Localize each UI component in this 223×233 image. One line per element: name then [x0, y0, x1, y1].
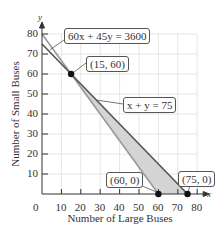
y-tick-label: 60: [27, 68, 38, 79]
y-tick-label: 10: [27, 168, 38, 179]
y-tick-label: 20: [27, 148, 38, 159]
label-point-75-0: (75, 0): [178, 171, 215, 187]
x-axis-symbol: x: [207, 190, 211, 199]
y-tick-label: 40: [27, 108, 38, 119]
data-point: [184, 191, 190, 197]
x-axis-label: Number of Large Buses: [40, 212, 200, 224]
y-axis-label: Number of Small Buses: [9, 59, 21, 169]
annotation-line1: 60x + 45y = 3600: [64, 28, 150, 44]
label-point-60-0: (60, 0): [106, 172, 143, 188]
y-tick-label: 50: [27, 88, 38, 99]
y-axis-symbol: y: [38, 13, 42, 22]
y-axis-arrow-icon: [40, 22, 45, 28]
y-tick-label: 80: [27, 28, 38, 39]
y-tick-label: 30: [27, 128, 38, 139]
annotation-line2: x + y = 75: [123, 97, 176, 113]
y-tick-label: 70: [27, 48, 38, 59]
label-point-15-60: (15, 60): [86, 56, 129, 72]
x-tick-label: 0: [33, 202, 39, 213]
data-point: [68, 71, 74, 77]
